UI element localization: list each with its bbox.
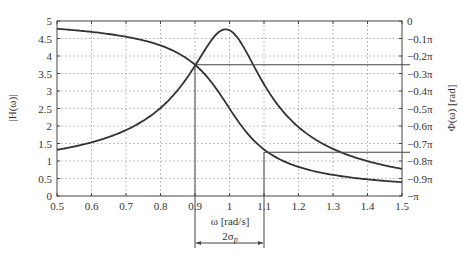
y-axis-right-label: Φ(ω) [rad] [445,85,458,132]
y-right-tick-label: −0.6π [407,120,433,132]
y-tick-label: 0 [47,190,53,202]
y-tick-label: 1 [47,155,53,167]
y-right-tick-label: −0.2π [407,50,433,62]
y-axis-left-label: |H(ω)| [6,95,19,122]
y-right-tick-label: −0.4π [407,85,433,97]
x-tick-label: 0.5 [50,200,64,212]
y-right-tick-label: −0.8π [407,155,433,167]
y-right-tick-label: −0.9π [407,173,433,185]
y-tick-label: 1.5 [38,138,52,150]
arrow-right-icon [258,241,263,245]
y-tick-label: 3.5 [38,68,52,80]
arrow-left-icon [196,241,201,245]
y-right-tick-label: −0.1π [407,33,433,45]
y-tick-label: 0.5 [38,173,52,185]
x-tick-label: 0.6 [85,200,99,212]
x-tick-label: 1.3 [326,200,340,212]
y-tick-label: 2.5 [38,103,52,115]
y-right-tick-label: −0.3π [407,68,433,80]
y-right-tick-label: −0.7π [407,138,433,150]
y-right-tick-label: −0.5π [407,103,433,115]
y-tick-label: 5 [47,15,53,27]
y-axis-right-ticks: 0−0.1π−0.2π−0.3π−0.4π−0.5π−0.6π−0.7π−0.8… [399,15,433,202]
y-tick-label: 2 [47,120,53,132]
y-tick-label: 4.5 [38,33,52,45]
y-right-tick-label: 0 [407,15,413,27]
x-tick-label: 0.7 [119,200,133,212]
bandwidth-label: 2σp [222,230,237,244]
x-tick-label: 1 [227,200,233,212]
y-tick-label: 3 [47,85,53,97]
y-right-tick-label: −π [407,190,419,202]
y-tick-label: 4 [47,50,53,62]
x-tick-label: 1.2 [292,200,306,212]
x-tick-label: 1.4 [361,200,375,212]
x-axis-label: ω [rad/s] [211,215,250,227]
x-tick-label: 0.8 [154,200,168,212]
frequency-response-chart: 0.50.60.70.80.911.11.21.31.41.5 00.511.5… [0,0,462,261]
